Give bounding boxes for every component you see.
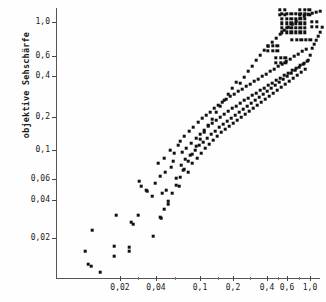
data-point bbox=[196, 157, 199, 160]
data-point bbox=[301, 50, 304, 53]
data-point bbox=[190, 142, 193, 145]
data-point bbox=[321, 26, 324, 29]
data-point bbox=[247, 97, 250, 100]
data-point bbox=[213, 107, 216, 110]
data-point-cluster-cell bbox=[283, 56, 286, 59]
data-point bbox=[203, 131, 206, 134]
data-point bbox=[154, 182, 157, 185]
data-point bbox=[292, 77, 295, 80]
data-point bbox=[231, 87, 234, 90]
data-point bbox=[278, 81, 281, 84]
data-point-cluster-cell bbox=[274, 56, 277, 59]
data-point bbox=[319, 31, 322, 34]
data-point bbox=[233, 93, 236, 96]
data-point-cluster-cell bbox=[294, 17, 297, 20]
data-point bbox=[309, 54, 312, 57]
data-point-cluster-cell bbox=[298, 13, 301, 16]
data-point bbox=[219, 116, 222, 119]
data-point bbox=[177, 144, 180, 147]
data-point-cluster-cell bbox=[303, 8, 306, 11]
data-point bbox=[181, 151, 184, 154]
data-point bbox=[255, 59, 258, 62]
data-point bbox=[91, 229, 94, 232]
data-point bbox=[163, 208, 166, 211]
data-point-cluster-cell bbox=[303, 21, 306, 24]
data-point bbox=[197, 121, 200, 124]
data-point bbox=[228, 125, 231, 128]
data-point bbox=[214, 130, 217, 133]
data-point bbox=[311, 12, 314, 15]
data-point-cluster-cell bbox=[280, 26, 283, 29]
data-point bbox=[246, 105, 249, 108]
data-point bbox=[290, 72, 293, 75]
data-point bbox=[223, 99, 226, 102]
data-point bbox=[212, 139, 215, 142]
data-point bbox=[251, 94, 254, 97]
data-point-cluster-cell bbox=[289, 17, 292, 20]
data-point bbox=[264, 98, 267, 101]
data-point bbox=[307, 59, 310, 62]
data-point-cluster-cell bbox=[295, 38, 298, 41]
data-point bbox=[250, 102, 253, 105]
data-point bbox=[183, 135, 186, 138]
data-point bbox=[227, 93, 230, 96]
data-point bbox=[140, 185, 143, 188]
data-point-cluster-cell bbox=[271, 49, 274, 52]
data-point bbox=[84, 250, 87, 253]
data-point-cluster-cell bbox=[299, 26, 302, 29]
data-point-cluster-cell bbox=[303, 17, 306, 20]
data-point bbox=[232, 122, 235, 125]
data-point bbox=[241, 88, 244, 91]
data-point bbox=[277, 65, 280, 68]
data-point-cluster-cell bbox=[266, 49, 269, 52]
data-point-cluster-cell bbox=[303, 26, 306, 29]
data-point bbox=[262, 93, 265, 96]
data-point bbox=[161, 192, 164, 195]
data-point-cluster-cell bbox=[280, 17, 283, 20]
data-point bbox=[199, 138, 202, 141]
data-point bbox=[259, 54, 262, 57]
data-point bbox=[216, 135, 219, 138]
data-point bbox=[288, 80, 291, 83]
data-point bbox=[313, 43, 316, 46]
data-point bbox=[187, 171, 190, 174]
data-point bbox=[315, 39, 318, 42]
data-point-cluster-cell bbox=[310, 20, 313, 23]
data-point-cluster-cell bbox=[294, 31, 297, 34]
data-point bbox=[255, 92, 258, 95]
data-point bbox=[230, 117, 233, 120]
data-point bbox=[175, 184, 178, 187]
data-point bbox=[256, 104, 259, 107]
data-point bbox=[252, 107, 255, 110]
data-point bbox=[172, 160, 175, 163]
data-point bbox=[247, 70, 250, 73]
data-point-cluster-cell bbox=[290, 38, 293, 41]
data-point-cluster-cell bbox=[280, 31, 283, 34]
data-point bbox=[115, 214, 118, 217]
data-point-cluster-cell bbox=[283, 61, 286, 64]
data-point bbox=[266, 90, 269, 93]
data-point bbox=[215, 111, 218, 114]
data-point bbox=[188, 130, 191, 133]
data-point-cluster-cell bbox=[299, 31, 302, 34]
data-point-cluster-cell bbox=[279, 61, 282, 64]
data-point-cluster-cell bbox=[289, 21, 292, 24]
data-points-layer bbox=[0, 0, 326, 302]
data-point-cluster-cell bbox=[283, 8, 286, 11]
data-point bbox=[198, 144, 201, 147]
data-point bbox=[222, 123, 225, 126]
data-point bbox=[235, 105, 238, 108]
data-point bbox=[304, 68, 307, 71]
data-point bbox=[179, 176, 182, 179]
data-point bbox=[296, 74, 299, 77]
data-point bbox=[146, 190, 149, 193]
data-point bbox=[204, 147, 207, 150]
data-point bbox=[231, 107, 234, 110]
data-point bbox=[251, 65, 254, 68]
data-point-cluster-cell bbox=[307, 13, 310, 16]
data-point bbox=[274, 84, 277, 87]
data-point-cluster-cell bbox=[274, 61, 277, 64]
data-point bbox=[272, 92, 275, 95]
data-point-cluster-cell bbox=[271, 44, 274, 47]
data-point-cluster-cell bbox=[299, 21, 302, 24]
